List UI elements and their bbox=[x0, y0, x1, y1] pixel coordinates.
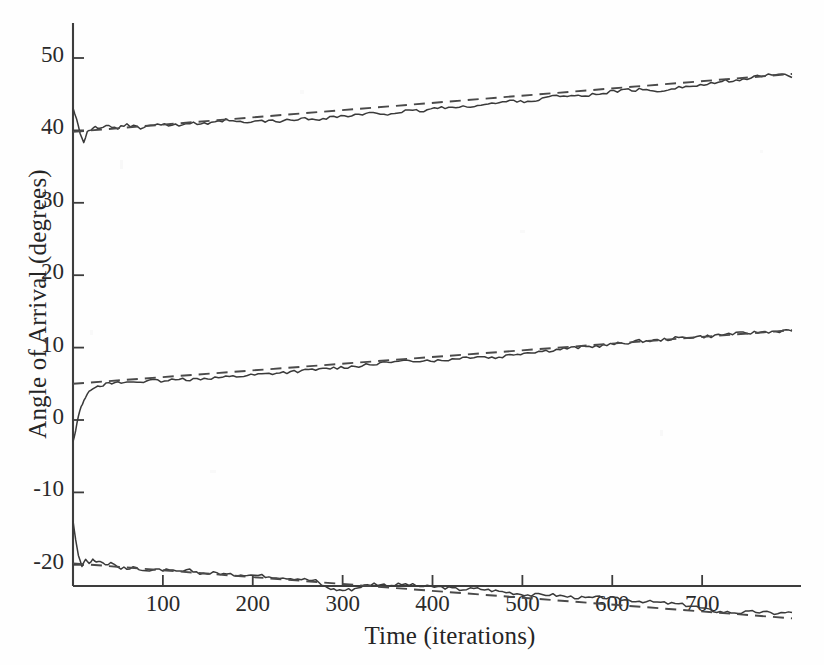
tick-marks bbox=[73, 58, 702, 586]
series-source-2-estimate bbox=[73, 330, 792, 442]
series-source-2-trend bbox=[73, 330, 792, 384]
series-source-1-estimate bbox=[73, 74, 792, 143]
data-series-group bbox=[73, 74, 792, 618]
series-source-1-trend bbox=[73, 74, 792, 132]
series-source-3-trend bbox=[73, 563, 792, 618]
figure-canvas: Angle of Arrival (degrees) Time (iterati… bbox=[0, 0, 824, 665]
plot-area bbox=[0, 0, 824, 665]
series-source-3-estimate bbox=[73, 521, 792, 615]
axis-lines bbox=[73, 23, 801, 586]
